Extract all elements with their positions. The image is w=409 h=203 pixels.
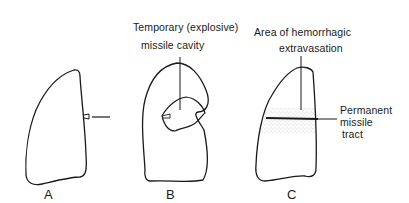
panel-letter-b: B bbox=[166, 188, 175, 202]
hemorrhagic-area-label-line1: Area of hemorrhagic bbox=[254, 26, 351, 39]
panel-a-lung bbox=[26, 70, 110, 185]
temporary-cavity-label-line2: missile cavity bbox=[141, 39, 204, 52]
temporary-cavity-label-line1: Temporary (explosive) bbox=[133, 21, 238, 34]
panel-c-lung bbox=[250, 56, 337, 181]
permanent-missile-tract-line bbox=[266, 118, 318, 119]
panel-letter-c: C bbox=[287, 188, 296, 202]
panel-b-lung bbox=[143, 57, 209, 181]
missile-wound-diagram: Temporary (explosive) missile cavity Are… bbox=[0, 0, 409, 203]
permanent-tract-label-line3: tract bbox=[342, 128, 363, 141]
panel-letter-a: A bbox=[44, 188, 53, 202]
hemorrhagic-extravasation-area bbox=[250, 108, 322, 133]
hemorrhagic-area-label-line2: extravasation bbox=[279, 42, 343, 55]
